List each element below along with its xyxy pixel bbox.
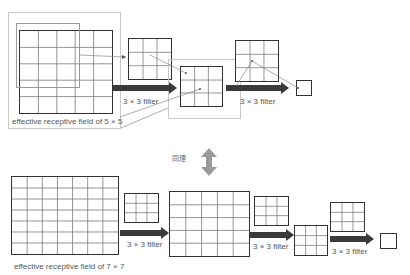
output-cell-bottom — [380, 233, 397, 249]
filter-grid-2 — [254, 196, 289, 226]
equivalence-label: 同理 — [172, 155, 186, 162]
receptive-field-label-7x7: effective receptive field of 7 × 7 — [14, 263, 124, 271]
filter-label-top-2: 3 × 3 filter — [240, 98, 275, 106]
conv-arrow-bottom-2 — [250, 232, 295, 238]
filter-label-bottom-3: 3 × 3 filter — [332, 248, 367, 256]
filter-grid-3 — [330, 202, 365, 232]
filter-label-bottom-2: 3 × 3 filter — [253, 243, 288, 251]
filter-grid-a — [128, 38, 172, 80]
conv-arrow-top-1 — [113, 85, 178, 91]
conv-arrow-bottom-1 — [120, 230, 170, 236]
conv-arrow-bottom-3 — [330, 236, 375, 242]
conv-arrow-top-2 — [226, 85, 290, 91]
receptive-field-label-5x5: effective receptive field of 5 × 5 — [12, 118, 122, 126]
double-arrow-vertical-icon — [201, 148, 217, 176]
feature-grid-5x5 — [169, 191, 250, 257]
output-cell-top — [296, 80, 312, 96]
feature-grid-3x3 — [180, 66, 223, 107]
filter-grid-b — [235, 40, 279, 82]
feature-grid-3x3-bottom — [294, 225, 328, 256]
filter-grid-1 — [124, 193, 159, 223]
highlight-region-box — [16, 23, 80, 88]
filter-label-top-1: 3 × 3 filter — [123, 98, 158, 106]
input-grid-7x7 — [11, 176, 119, 255]
filter-label-bottom-1: 3 × 3 filter — [127, 241, 162, 249]
